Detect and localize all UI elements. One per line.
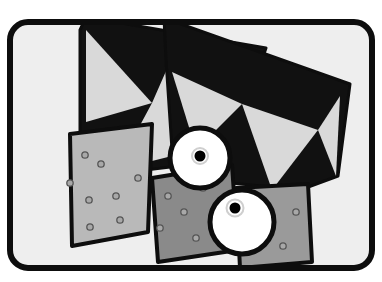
lower-eye-pupil — [230, 203, 241, 214]
left-riveted-panel-rivet — [117, 217, 123, 223]
left-riveted-panel-rivet — [113, 193, 119, 199]
left-riveted-panel-rivet — [86, 197, 92, 203]
left-riveted-panel-rivet — [87, 224, 93, 230]
lower-eye-sclera — [210, 190, 274, 254]
left-riveted-panel-rivet — [82, 152, 88, 158]
upper-eye-pupil — [195, 151, 206, 162]
left-riveted-panel — [67, 124, 152, 246]
abstract-illustration — [0, 0, 382, 282]
left-riveted-panel-rivet — [67, 180, 73, 186]
left-riveted-panel-rivet — [135, 175, 141, 181]
right-riveted-panel-rivet — [293, 209, 299, 215]
left-riveted-panel-body — [70, 124, 152, 246]
center-riveted-panel-rivet — [157, 225, 163, 231]
center-riveted-panel-rivet — [193, 235, 199, 241]
lower-eye — [210, 190, 274, 254]
upper-eye — [170, 128, 230, 188]
illustration-stage — [0, 0, 382, 282]
center-riveted-panel-rivet — [181, 209, 187, 215]
center-riveted-panel-rivet — [165, 193, 171, 199]
right-riveted-panel-rivet — [280, 243, 286, 249]
left-riveted-panel-rivet — [98, 161, 104, 167]
